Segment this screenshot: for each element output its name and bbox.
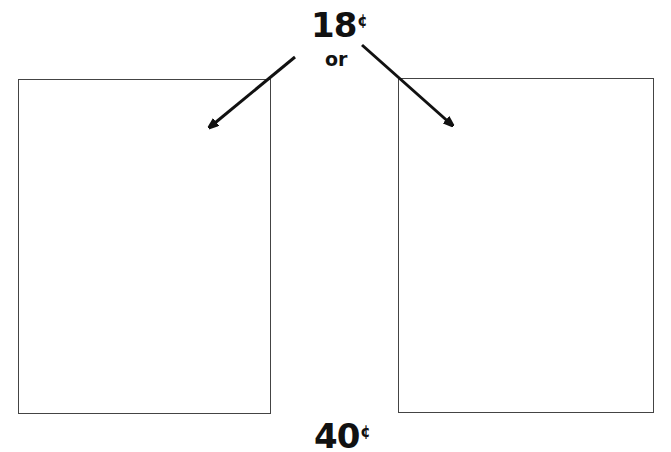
top-price-value: 18 (311, 5, 356, 45)
bottom-price: 40¢ (314, 419, 370, 452)
arrow-left-icon (210, 57, 295, 127)
cent-symbol: ¢ (360, 423, 369, 441)
bottom-price-value: 40 (314, 416, 359, 452)
arrow-right-icon (362, 45, 452, 125)
cent-symbol: ¢ (357, 12, 366, 30)
or-label: or (325, 50, 347, 69)
top-price: 18¢ (311, 8, 367, 42)
